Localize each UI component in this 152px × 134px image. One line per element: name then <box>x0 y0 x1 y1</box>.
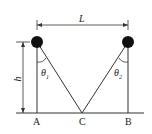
label-h: h <box>13 77 23 82</box>
ball-left <box>31 36 43 48</box>
label-theta-left: θ1 <box>41 68 49 80</box>
arrow-h-bottom <box>21 108 25 113</box>
label-theta-right: θ2 <box>114 68 122 80</box>
label-B: B <box>125 117 132 127</box>
ball-right <box>122 36 134 48</box>
arrow-h-top <box>21 42 25 47</box>
angle-arc-right <box>119 58 128 62</box>
diagram-canvas <box>0 0 152 134</box>
angle-arc-left <box>37 58 46 62</box>
arrow-L-right <box>123 23 128 27</box>
label-L: L <box>79 14 85 24</box>
label-A: A <box>33 117 40 127</box>
label-C: C <box>79 117 86 127</box>
arrow-L-left <box>37 23 42 27</box>
